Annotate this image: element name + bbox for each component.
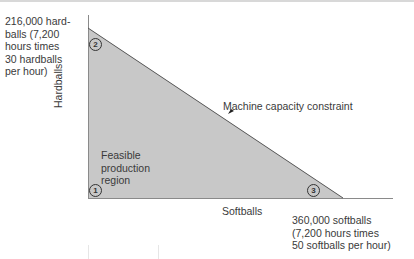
constraint-label: Machine capacity constraint xyxy=(223,100,353,113)
faint-tick xyxy=(158,245,159,259)
y-axis-label: Hardballs xyxy=(52,64,64,108)
faint-tick xyxy=(88,245,89,259)
x-intercept-label: 360,000 softballs (7,200 hours times 50 … xyxy=(292,214,391,252)
corner-point-3: 3 xyxy=(307,184,320,197)
corner-point-2: 2 xyxy=(89,38,102,51)
x-axis-label: Softballs xyxy=(222,205,262,218)
feasible-region-label: Feasible production region xyxy=(101,149,150,187)
corner-point-1: 1 xyxy=(89,184,102,197)
